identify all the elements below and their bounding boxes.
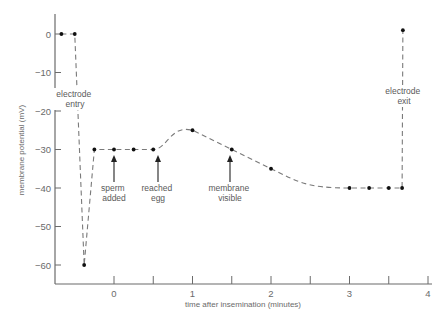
x-axis-title: time after insemination (minutes) (185, 300, 301, 309)
arrow-up-icon (227, 155, 233, 162)
x-ticks: 01234 (111, 276, 430, 299)
data-point (151, 148, 155, 152)
data-point (82, 263, 86, 267)
membrane-potential-trace (61, 30, 402, 265)
data-point (400, 186, 404, 190)
svg-text:reached egg: reached egg (141, 183, 174, 203)
data-point (132, 148, 136, 152)
svg-text:membrane visible: membrane visible (208, 183, 251, 203)
data-point (191, 128, 195, 132)
y-tick-label: −60 (35, 260, 51, 271)
svg-text:sperm added: sperm added (101, 183, 127, 203)
y-tick-label: −30 (35, 144, 51, 155)
data-point (92, 148, 96, 152)
data-point (60, 32, 64, 36)
arrow-up-icon (155, 155, 161, 162)
data-point (387, 186, 391, 190)
y-tick-label: −50 (35, 221, 51, 232)
x-tick-label: 1 (190, 288, 195, 299)
data-point (367, 186, 371, 190)
sperm-added-annotation: sperm added (101, 155, 127, 203)
data-point (73, 32, 77, 36)
data-point (348, 186, 352, 190)
y-tick-label: 0 (46, 29, 51, 40)
y-tick-label: −20 (35, 106, 51, 117)
data-point (230, 148, 234, 152)
y-tick-label: −10 (35, 67, 51, 78)
data-point (401, 28, 405, 32)
data-points (60, 28, 405, 267)
x-tick-label: 4 (425, 288, 430, 299)
arrow-up-icon (111, 155, 117, 162)
data-point (269, 167, 273, 171)
membrane-potential-chart: 0−10−20−30−40−50−60 01234 membrane poten… (0, 0, 446, 318)
y-tick-label: −40 (35, 183, 51, 194)
x-tick-label: 2 (268, 288, 273, 299)
x-tick-label: 3 (347, 288, 352, 299)
data-point (112, 148, 116, 152)
x-tick-label: 0 (111, 288, 116, 299)
y-axis-title: membrane potential (mV) (17, 105, 26, 196)
y-ticks: 0−10−20−30−40−50−60 (35, 29, 61, 271)
reached-egg-annotation: reached egg (141, 155, 174, 203)
membrane-visible-annotation: membrane visible (208, 155, 251, 203)
